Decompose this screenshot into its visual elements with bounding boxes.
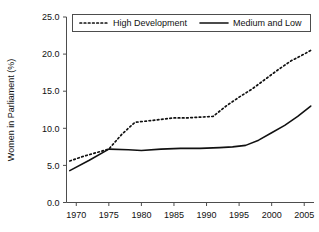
x-tick-label: 1995 — [229, 210, 249, 220]
x-tick-label: 1980 — [131, 210, 151, 220]
x-tick-label: 2005 — [294, 210, 314, 220]
line-chart: 0.05.010.015.020.025.0 19701975198019851… — [0, 0, 319, 232]
chart-container: 0.05.010.015.020.025.0 19701975198019851… — [0, 0, 319, 232]
x-tick-label: 1970 — [66, 210, 86, 220]
legend-label-medium-and-low: Medium and Low — [233, 18, 302, 28]
chart-legend: High Development Medium and Low — [73, 15, 311, 32]
y-tick-label: 0.0 — [47, 198, 60, 208]
y-tick-label: 20.0 — [42, 49, 60, 59]
y-axis-title: Women in Parliament (%) — [6, 59, 16, 161]
x-tick-label: 2000 — [262, 210, 282, 220]
x-tick-label: 1990 — [197, 210, 217, 220]
legend-label-high-development: High Development — [113, 18, 188, 28]
y-tick-label: 25.0 — [42, 12, 60, 22]
y-tick-label: 5.0 — [47, 161, 60, 171]
y-tick-label: 15.0 — [42, 86, 60, 96]
x-tick-label: 1975 — [99, 210, 119, 220]
y-tick-label: 10.0 — [42, 124, 60, 134]
x-tick-label: 1985 — [164, 210, 184, 220]
